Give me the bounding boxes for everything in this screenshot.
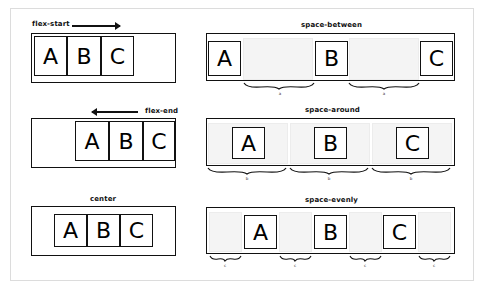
gap-space [349,212,382,252]
flex-item-b: B [314,215,347,249]
brace-icon [289,167,369,175]
gap-label: b [244,176,250,181]
space-between-container: A B C [206,33,455,81]
flex-item-b: B [315,41,348,76]
flex-start-label: flex-start [32,20,70,28]
flex-item-b: B [67,36,101,76]
space-around-container: A B C [206,118,455,166]
gap-space [209,212,242,252]
gap-space [243,38,313,80]
flex-item-a: A [34,36,67,76]
flex-item-c: C [383,215,416,249]
brace-icon [348,82,420,90]
flex-item-c: C [396,127,429,159]
flex-item-c: C [420,41,453,76]
brace-icon [418,255,451,262]
brace-icon [279,255,312,262]
brace-icon [243,82,315,90]
space-evenly-container: A B C [206,207,455,254]
gap-space [349,38,419,80]
arrow-left-icon [92,111,138,113]
gap-space [418,212,451,252]
flex-item-c: C [120,214,153,247]
gap-label: a [277,91,283,96]
gap-label: b [326,176,332,181]
brace-icon [371,167,451,175]
gap-space [279,212,312,252]
space-evenly-label: space-evenly [305,196,358,204]
gap-label: c [292,263,298,268]
space-around-label: space-around [305,106,360,114]
flex-item-a: A [54,214,87,247]
brace-icon [349,255,382,262]
flex-item-c: C [101,36,134,76]
flex-item-b: B [109,121,143,161]
flex-item-c: C [143,121,175,161]
center-label: center [90,195,116,203]
flex-item-a: A [75,121,109,161]
gap-label: c [362,263,368,268]
center-container: A B C [31,206,176,256]
flex-item-a: A [232,127,265,159]
flex-end-label: flex-end [145,107,178,115]
gap-label: c [222,263,228,268]
flex-item-a: A [208,41,241,76]
brace-icon [207,167,287,175]
gap-label: a [381,91,387,96]
gap-label: c [431,263,437,268]
brace-icon [209,255,242,262]
flex-start-container: A B C [31,33,176,83]
space-between-label: space-between [301,21,362,29]
arrow-right-icon [72,25,120,27]
flex-item-b: B [314,127,347,159]
flex-item-b: B [87,214,120,247]
flex-item-a: A [244,215,277,249]
gap-label: b [408,176,414,181]
flex-end-container: A B C [31,118,176,168]
